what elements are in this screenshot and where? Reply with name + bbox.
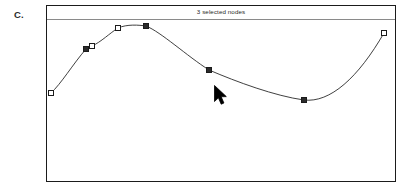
selection-status-label: 3 selected nodes xyxy=(197,9,245,15)
curve-plot[interactable] xyxy=(47,20,394,181)
curve-node[interactable] xyxy=(382,31,387,36)
curve-canvas[interactable] xyxy=(47,20,395,181)
figure-label: C. xyxy=(14,10,24,20)
curve-node-selected[interactable] xyxy=(84,47,89,52)
curve-node[interactable] xyxy=(116,26,121,31)
curve-node[interactable] xyxy=(90,44,95,49)
curve-line[interactable] xyxy=(51,25,384,100)
curve-node-selected[interactable] xyxy=(207,68,212,73)
curve-node-selected[interactable] xyxy=(302,98,307,103)
curve-node[interactable] xyxy=(49,91,54,96)
panel-header: 3 selected nodes xyxy=(47,6,395,20)
curve-editor-panel[interactable]: 3 selected nodes xyxy=(46,5,396,182)
curve-node-selected[interactable] xyxy=(144,24,149,29)
